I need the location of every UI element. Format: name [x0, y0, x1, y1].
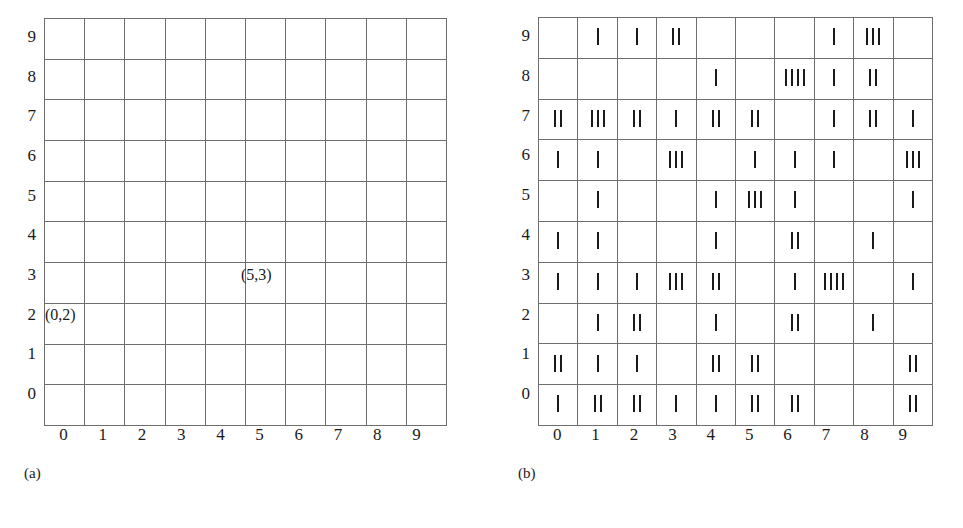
grid-cell — [205, 100, 245, 141]
grid-cell — [775, 221, 814, 262]
coordinate-annotation: (5,3) — [241, 266, 272, 284]
tally-marks — [597, 353, 599, 373]
tally-stroke — [597, 151, 599, 168]
grid-cell — [893, 262, 932, 303]
tally-marks — [669, 149, 683, 169]
grid-cell — [617, 303, 656, 344]
grid-cell — [205, 303, 245, 344]
grid-cell — [814, 344, 853, 385]
tally-stroke — [675, 151, 677, 168]
tally-stroke — [915, 355, 917, 372]
grid-cell — [539, 344, 578, 385]
tally-marks — [912, 190, 914, 210]
grid-cell — [735, 262, 774, 303]
grid-cell — [814, 58, 853, 99]
grid-cell — [165, 59, 205, 100]
grid-a — [44, 18, 447, 426]
grid-cell — [696, 303, 735, 344]
grid-cell — [326, 19, 366, 60]
y-axis-label: 4 — [516, 225, 530, 245]
grid-cell — [326, 100, 366, 141]
tally-marks — [791, 394, 799, 414]
grid-cell — [578, 221, 617, 262]
grid-cell — [125, 181, 165, 222]
grid-cell — [286, 181, 326, 222]
grid-cell — [854, 303, 893, 344]
y-axis-label: 7 — [516, 106, 530, 126]
grid-cell — [617, 262, 656, 303]
tally-stroke — [797, 69, 799, 86]
tally-marks — [866, 27, 880, 47]
grid-cell — [326, 181, 366, 222]
tally-stroke — [597, 110, 599, 127]
tally-stroke — [597, 232, 599, 249]
x-axis-label: 7 — [328, 425, 348, 445]
y-axis-label: 1 — [516, 344, 530, 364]
x-axis-label: 4 — [701, 425, 721, 445]
grid-cell — [165, 344, 205, 385]
tally-marks — [557, 271, 559, 291]
grid-cell — [735, 303, 774, 344]
grid-cell — [578, 140, 617, 181]
tally-marks — [554, 108, 562, 128]
grid-cell — [578, 99, 617, 140]
tally-stroke — [791, 314, 793, 331]
grid-cell — [286, 222, 326, 263]
tally-stroke — [906, 151, 908, 168]
grid-cell — [165, 222, 205, 263]
grid-cell — [286, 344, 326, 385]
tally-marks — [672, 27, 680, 47]
grid-cell — [539, 18, 578, 59]
grid-cell — [286, 263, 326, 304]
grid-cell — [539, 262, 578, 303]
tally-stroke — [757, 110, 759, 127]
tally-marks — [597, 312, 599, 332]
tally-stroke — [797, 232, 799, 249]
grid-cell — [539, 140, 578, 181]
grid-cell — [814, 18, 853, 59]
tally-marks — [912, 271, 914, 291]
tally-stroke — [636, 28, 638, 45]
tally-marks — [794, 149, 796, 169]
grid-cell — [286, 303, 326, 344]
tally-stroke — [833, 151, 835, 168]
tally-stroke — [754, 151, 756, 168]
y-axis-label: 4 — [22, 225, 36, 245]
grid-cell — [696, 18, 735, 59]
tally-stroke — [833, 28, 835, 45]
grid-cell — [893, 385, 932, 426]
grid-cell — [286, 19, 326, 60]
grid-cell — [617, 99, 656, 140]
tally-marks — [833, 27, 835, 47]
tally-stroke — [751, 395, 753, 412]
grid-cell — [735, 99, 774, 140]
tally-stroke — [833, 110, 835, 127]
grid-cell — [286, 59, 326, 100]
tally-stroke — [718, 273, 720, 290]
tally-stroke — [912, 191, 914, 208]
y-axis-label: 8 — [516, 66, 530, 86]
tally-stroke — [633, 110, 635, 127]
grid-cell — [735, 385, 774, 426]
grid-cell — [85, 263, 125, 304]
tally-stroke — [669, 273, 671, 290]
tally-marks — [715, 190, 717, 210]
grid-cell — [245, 181, 285, 222]
grid-cell — [85, 222, 125, 263]
tally-marks — [794, 271, 796, 291]
x-axis-label: 1 — [93, 425, 113, 445]
tally-marks — [557, 231, 559, 251]
grid-cell — [245, 303, 285, 344]
grid-cell — [814, 385, 853, 426]
y-axis-label: 0 — [22, 384, 36, 404]
tally-stroke — [639, 314, 641, 331]
tally-stroke — [748, 191, 750, 208]
tally-stroke — [681, 273, 683, 290]
grid-cell — [125, 344, 165, 385]
grid-cell — [657, 181, 696, 222]
tally-stroke — [715, 69, 717, 86]
tally-stroke — [672, 28, 674, 45]
grid-cell — [578, 18, 617, 59]
grid-cell — [125, 222, 165, 263]
tally-marks — [597, 271, 599, 291]
